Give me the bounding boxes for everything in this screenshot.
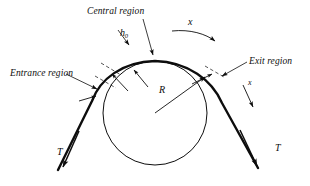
- central-region-leader: [143, 19, 153, 55]
- label-entrance-region: Entrance region: [10, 69, 73, 79]
- label-coordinate-entry: x: [188, 17, 193, 27]
- belt-pulley-diagram: Central region h0 x Entrance region Exit…: [0, 0, 310, 186]
- label-exit-region: Exit region: [249, 57, 292, 67]
- diagram-canvas: [0, 0, 310, 186]
- radius-arrow: [155, 77, 205, 113]
- label-coordinate-exit: x: [248, 79, 252, 87]
- belt-path: [58, 61, 258, 170]
- label-radius: R: [159, 85, 165, 95]
- label-tension-left: T: [57, 147, 63, 157]
- tension-arrow-right: [240, 130, 257, 166]
- region-boundary-tick-entrance-2: [101, 63, 121, 75]
- exit-region-leader: [222, 62, 247, 76]
- label-belt-thickness: h0: [120, 28, 128, 38]
- gap-arrow-left: [112, 74, 128, 91]
- coordinate-arrow-entry: [172, 31, 215, 41]
- coordinate-arrow-exit: [243, 85, 253, 107]
- tension-arrow-left: [63, 131, 79, 167]
- label-tension-right: T: [275, 143, 281, 153]
- region-boundary-tick-exit: [205, 66, 224, 77]
- belt-thickness-subscript: 0: [125, 32, 128, 39]
- gap-arrow-center: [134, 70, 148, 87]
- label-central-region: Central region: [87, 7, 144, 17]
